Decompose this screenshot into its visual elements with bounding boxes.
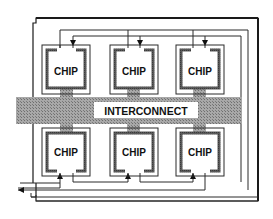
chip-label: CHIP xyxy=(54,66,78,77)
chip-label: CHIP xyxy=(54,147,78,158)
chip-label: CHIP xyxy=(188,66,212,77)
chip-bottom-right: CHIP xyxy=(176,128,224,176)
interconnect-label: INTERCONNECT xyxy=(104,105,188,117)
chip-bottom-middle: CHIP xyxy=(110,128,158,176)
interconnect-bus: INTERCONNECT xyxy=(16,84,242,137)
chip-label: CHIP xyxy=(188,147,212,158)
chip-interconnect-diagram: INTERCONNECT CHIP CHIP CHIP CHIP CHIP CH… xyxy=(0,0,273,219)
chip-top-middle: CHIP xyxy=(110,45,158,94)
chip-top-left: CHIP xyxy=(42,45,90,94)
chip-label: CHIP xyxy=(122,66,146,77)
chip-bottom-left: CHIP xyxy=(42,128,90,176)
chip-top-right: CHIP xyxy=(176,45,224,94)
chip-label: CHIP xyxy=(122,147,146,158)
